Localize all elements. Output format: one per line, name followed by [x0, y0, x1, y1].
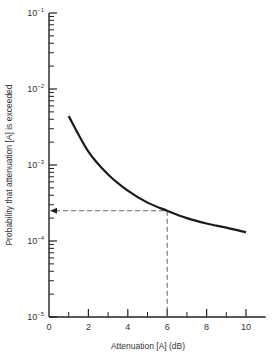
x-tick-label: 6 — [165, 322, 170, 332]
y-tick-label: 10−5 — [27, 311, 45, 322]
dashed-guides — [50, 208, 167, 317]
x-axis: 0246810 — [46, 309, 265, 332]
x-axis-title: Attenuation [A] (dB) — [111, 341, 185, 351]
y-axis-title: Probability that attenuation [A] is exce… — [4, 84, 14, 245]
x-tick-label: 0 — [46, 322, 51, 332]
x-tick-label: 2 — [86, 322, 91, 332]
y-tick-label: 10−4 — [27, 235, 45, 246]
data-curve — [69, 116, 246, 232]
x-tick-label: 10 — [241, 322, 251, 332]
y-tick-label: 10−1 — [27, 7, 45, 18]
exceedance-chart: 10−110−210−310−410−5 0246810 Attenuation… — [0, 0, 275, 354]
y-tick-label: 10−2 — [27, 83, 45, 94]
x-tick-label: 4 — [125, 322, 130, 332]
x-tick-label: 8 — [204, 322, 209, 332]
y-axis: 10−110−210−310−410−5 — [27, 7, 57, 322]
y-tick-label: 10−3 — [27, 159, 45, 170]
arrow-left-icon — [50, 208, 57, 214]
